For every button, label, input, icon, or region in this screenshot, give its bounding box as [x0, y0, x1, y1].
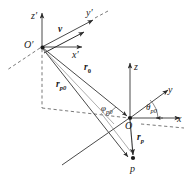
y-prime-axis-line	[42, 20, 93, 47]
x-prime-axis-label: x′	[72, 50, 79, 60]
x-axis-dashed-extension	[141, 124, 184, 128]
velocity-vector-label: v	[58, 25, 62, 35]
projection-base-line	[101, 113, 131, 152]
x-axis-label: x	[177, 114, 181, 124]
o-origin-label: O	[125, 121, 132, 131]
o-prime-origin-dot	[40, 45, 44, 49]
diagram-canvas	[0, 0, 189, 182]
point-p-label: p	[130, 164, 135, 174]
point-p-dot	[131, 156, 135, 160]
r-p-vector-label: rp	[137, 133, 144, 143]
z-axis-label: z	[134, 62, 138, 72]
y-prime-axis-extension	[95, 11, 108, 18]
z-prime-axis-label: z′	[31, 11, 37, 21]
vector-diagram-figure: z′ y′ x′ O′ v r0 rp0 φp0 z y x θp0 O rp …	[0, 0, 189, 182]
y-prime-axis-negative-extension	[7, 48, 40, 70]
theta-p0-angle-label: θp0	[146, 103, 157, 112]
phi-p0-angle-label: φp0	[101, 104, 112, 113]
o-prime-origin-label: O′	[24, 40, 33, 50]
y-prime-axis-label: y′	[86, 8, 93, 18]
projection-line-to-origin	[42, 108, 129, 118]
y-axis-label: y	[168, 85, 172, 95]
y-axis-negative-line	[62, 119, 128, 165]
r-p-zero-vector-label: rp0	[56, 80, 66, 90]
r-zero-vector-label: r0	[84, 63, 91, 73]
